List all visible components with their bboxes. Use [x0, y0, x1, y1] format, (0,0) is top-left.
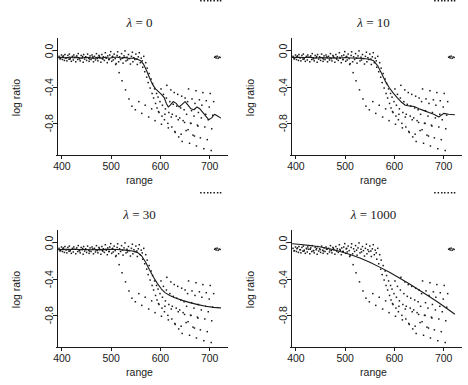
panel-lambda-0: λ = 04005006007000.0-0.4-0.8rangelog rat…: [0, 0, 234, 192]
x-tick-label: 700: [435, 160, 453, 172]
panel-title: λ = 1000: [350, 207, 396, 222]
panel-lambda-1000: λ = 10004005006007000.0-0.4-0.8rangelog …: [234, 192, 468, 384]
x-tick-label: 600: [386, 160, 404, 172]
y-tick-label: -0.4: [277, 78, 289, 96]
panel-lambda-10: λ = 104005006007000.0-0.4-0.8rangelog ra…: [234, 0, 468, 192]
y-tick-label: 0.0: [43, 235, 55, 250]
x-tick-label: 400: [287, 160, 305, 172]
panel-title: λ = 30: [122, 207, 155, 222]
panel-title: λ = 0: [126, 15, 153, 30]
x-axis-label: range: [360, 366, 387, 378]
x-axis-label: range: [126, 174, 153, 186]
x-tick-label: 600: [152, 160, 170, 172]
y-axis-label: log ratio: [244, 79, 256, 117]
y-tick-label: -0.8: [277, 306, 289, 324]
y-tick-label: -0.4: [43, 270, 55, 288]
y-tick-label: 0.0: [277, 235, 289, 250]
x-tick-label: 400: [53, 352, 71, 364]
y-tick-label: -0.8: [43, 306, 55, 324]
y-tick-label: 0.0: [277, 43, 289, 58]
panel-title: λ = 10: [356, 15, 389, 30]
x-tick-label: 400: [53, 160, 71, 172]
spline-fit-line: [58, 249, 220, 307]
y-axis-label: log ratio: [244, 271, 256, 309]
y-tick-label: -0.8: [43, 114, 55, 132]
x-tick-label: 600: [152, 352, 170, 364]
x-tick-label: 400: [287, 352, 305, 364]
y-tick-label: -0.4: [43, 78, 55, 96]
x-tick-label: 500: [102, 352, 120, 364]
y-axis-label: log ratio: [10, 79, 22, 117]
panel-lambda-30: λ = 304005006007000.0-0.4-0.8rangelog ra…: [0, 192, 234, 384]
x-tick-label: 700: [201, 352, 219, 364]
x-tick-label: 600: [386, 352, 404, 364]
figure-canvas: λ = 04005006007000.0-0.4-0.8rangelog rat…: [0, 0, 468, 385]
x-axis-label: range: [360, 174, 387, 186]
spline-fit-line: [58, 57, 220, 120]
x-tick-label: 700: [201, 160, 219, 172]
x-axis-label: range: [126, 366, 153, 378]
x-tick-label: 500: [336, 160, 354, 172]
y-tick-label: -0.8: [277, 114, 289, 132]
spline-fit-line: [292, 57, 454, 117]
y-tick-label: -0.4: [277, 270, 289, 288]
x-tick-label: 700: [435, 352, 453, 364]
x-tick-label: 500: [336, 352, 354, 364]
y-axis-label: log ratio: [10, 271, 22, 309]
y-tick-label: 0.0: [43, 43, 55, 58]
x-tick-label: 500: [102, 160, 120, 172]
